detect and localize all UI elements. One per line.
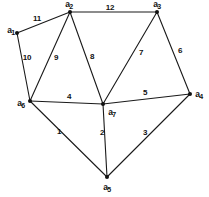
edge-a6-a7 (30, 101, 103, 104)
edges-group (17, 12, 190, 177)
graph-canvas (0, 0, 209, 197)
node-label-sub-a4: 4 (199, 93, 203, 100)
node-label-sub-a3: 3 (157, 3, 161, 10)
edge-weight-a2-a3: 12 (106, 4, 115, 12)
vertex-dot-a7 (101, 102, 105, 106)
edge-a5-a6 (30, 101, 107, 177)
vertices-group (15, 10, 192, 179)
node-label-sub-a2: 2 (69, 3, 73, 10)
node-label-a7: a7 (108, 108, 116, 118)
node-label-sub-a7: 7 (112, 111, 116, 118)
node-label-a4: a4 (195, 90, 203, 100)
vertex-dot-a4 (188, 92, 192, 96)
edge-weight-a6-a7: 4 (67, 93, 71, 101)
edge-a2-a7 (70, 12, 103, 104)
edge-a3-a7 (103, 12, 157, 104)
vertex-dot-a1 (15, 31, 19, 35)
vertex-dot-a5 (105, 175, 109, 179)
edge-weight-a5-a7: 2 (100, 129, 104, 137)
node-label-sub-a1: 1 (11, 29, 15, 36)
edge-weight-a3-a7: 7 (139, 49, 143, 57)
edge-weight-a1-a2: 11 (33, 15, 41, 23)
edge-weight-a2-a6: 9 (54, 54, 58, 62)
edge-weight-a2-a7: 8 (90, 53, 94, 61)
vertex-dot-a6 (28, 99, 32, 103)
node-label-sub-a5: 5 (107, 186, 111, 193)
node-label-a6: a6 (17, 99, 25, 109)
node-label-a2: a2 (65, 0, 73, 10)
node-label-sub-a6: 6 (21, 102, 25, 109)
edge-a5-a7 (103, 104, 107, 177)
vertex-dot-a2 (68, 10, 72, 14)
edge-weight-a4-a5: 3 (143, 129, 147, 137)
edge-weight-a3-a4: 6 (178, 47, 182, 55)
edge-a1-a6 (17, 33, 30, 101)
edge-a3-a4 (157, 12, 190, 94)
vertex-dot-a3 (155, 10, 159, 14)
node-label-a1: a1 (7, 26, 15, 36)
edge-a4-a5 (107, 94, 190, 177)
node-label-a5: a5 (103, 183, 111, 193)
node-label-a3: a3 (153, 0, 161, 10)
edge-weight-a1-a6: 10 (23, 54, 32, 62)
edge-weight-a4-a7: 5 (143, 89, 147, 97)
edge-weight-a5-a6: 1 (57, 128, 61, 136)
weighted-graph-diagram: 111012987654321 a1a2a3a4a5a6a7 (0, 0, 209, 197)
